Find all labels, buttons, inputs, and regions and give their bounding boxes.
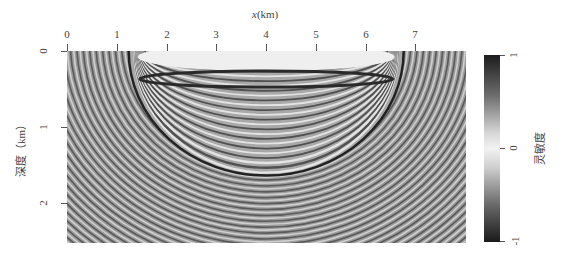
x-axis-title: x(km) — [252, 8, 278, 20]
colorbar-title: 灵敏度 — [531, 132, 547, 165]
x-tick-label: 0 — [64, 28, 70, 40]
x-tick-label: 2 — [164, 28, 170, 40]
x-tick-label: 3 — [213, 28, 219, 40]
x-tick-label: 7 — [412, 28, 418, 40]
colorbar-tick-label: 1 — [507, 52, 519, 58]
y-axis-title: 深度（km） — [12, 118, 28, 178]
x-tick-label: 4 — [263, 28, 269, 40]
y-tick-label: 0 — [37, 48, 49, 54]
x-tick-label: 1 — [114, 28, 120, 40]
colorbar-tick-label: -1 — [509, 236, 521, 245]
x-tick-label: 5 — [313, 28, 319, 40]
x-tick-mark — [316, 44, 317, 51]
colorbar-tick-label: 0 — [507, 145, 519, 151]
x-axis-title-unit: (km) — [257, 8, 278, 20]
x-tick-mark — [216, 44, 217, 51]
x-tick-mark — [117, 44, 118, 51]
x-tick-mark — [266, 44, 267, 51]
x-tick-label: 6 — [363, 28, 369, 40]
x-tick-mark — [415, 44, 416, 51]
colorbar — [484, 55, 500, 242]
y-tick-label: 2 — [37, 200, 49, 206]
colorbar-tick-mark — [500, 55, 505, 56]
y-tick-label: 1 — [37, 124, 49, 130]
x-tick-mark — [366, 44, 367, 51]
colorbar-tick-mark — [500, 148, 505, 149]
sensitivity-kernel-plot — [67, 51, 466, 243]
x-tick-mark — [167, 44, 168, 51]
x-tick-mark — [67, 44, 68, 51]
colorbar-tick-mark — [500, 241, 505, 242]
